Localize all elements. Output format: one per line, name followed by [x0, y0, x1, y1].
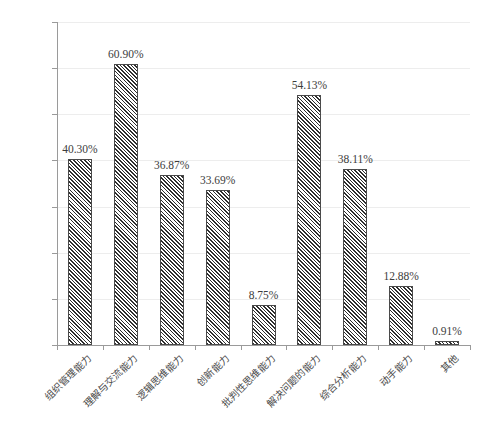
x-axis-tick-mark [195, 345, 196, 350]
y-axis-tick-mark [52, 253, 57, 254]
y-axis-tick-mark [52, 22, 57, 23]
bar [252, 305, 276, 345]
y-axis-tick-mark [52, 207, 57, 208]
y-axis-line [57, 22, 58, 346]
x-axis-category-label: 组织管理能力 [44, 353, 93, 402]
bar-value-label: 54.13% [279, 80, 339, 92]
bar [297, 95, 321, 345]
x-axis-tick-mark [57, 345, 58, 350]
gridline [57, 22, 470, 23]
bar-value-label: 0.91% [417, 326, 477, 338]
y-axis-tick-mark [52, 68, 57, 69]
bar [114, 64, 138, 345]
x-axis-tick-mark [286, 345, 287, 350]
x-axis-category-label: 综合分析能力 [319, 353, 368, 402]
x-axis-tick-mark [332, 345, 333, 350]
bar-value-label: 12.88% [371, 271, 431, 283]
y-axis-tick-mark [52, 114, 57, 115]
bar-value-label: 33.69% [188, 175, 248, 187]
x-axis-tick-mark [103, 345, 104, 350]
y-axis-tick-mark [52, 160, 57, 161]
x-axis-line [57, 345, 471, 346]
x-axis-category-label: 其他 [439, 353, 460, 374]
bar-value-label: 36.87% [142, 160, 202, 172]
bar [160, 175, 184, 345]
bar [206, 190, 230, 345]
x-axis-tick-mark [470, 345, 471, 350]
y-axis-tick-mark [52, 299, 57, 300]
bar-value-label: 40.30% [50, 144, 110, 156]
bar [389, 286, 413, 345]
bar-value-label: 8.75% [234, 290, 294, 302]
x-axis-category-label: 动手能力 [379, 353, 414, 388]
bar [68, 159, 92, 345]
x-axis-tick-mark [149, 345, 150, 350]
x-axis-category-label: 逻辑思维能力 [135, 353, 184, 402]
bar [343, 169, 367, 345]
bar-value-label: 38.11% [325, 154, 385, 166]
x-axis-category-label: 创新能力 [195, 353, 230, 388]
x-axis-tick-mark [378, 345, 379, 350]
bar-chart: 0.00%10.00%20.00%30.00%40.00%50.00%60.00… [0, 0, 489, 432]
x-axis-tick-mark [241, 345, 242, 350]
x-axis-tick-mark [424, 345, 425, 350]
bar-value-label: 60.90% [96, 49, 156, 61]
